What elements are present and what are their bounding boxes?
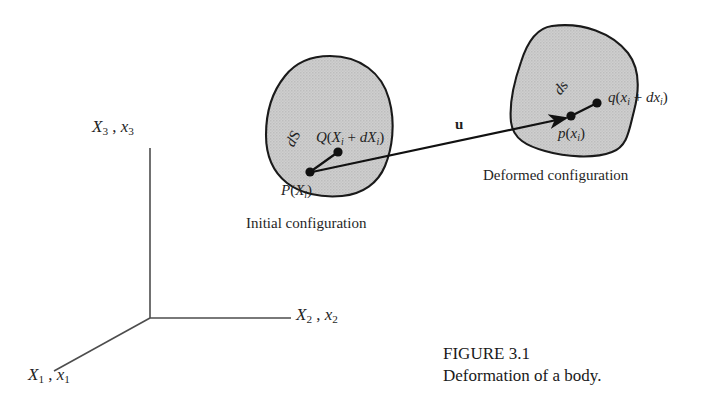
point-Q-marker [333,147,342,156]
axis-label-x3: X3 , x3 [92,118,134,137]
coordinate-axes [54,148,291,371]
displacement-vector-label: u [455,117,463,132]
point-p-marker [566,111,575,120]
point-label-Q: Q(Xi + dXi) [316,130,384,147]
point-label-P: P(Xi) [281,183,312,200]
axis-label-x2: X2 , x2 [296,306,338,325]
point-q-marker [592,98,601,107]
initial-configuration-body [266,56,393,196]
figure-caption-text: Deformation of a body. [443,365,601,387]
figure-canvas [0,0,727,404]
axis-label-x1: X1 , x1 [28,366,70,385]
initial-configuration-caption: Initial configuration [246,216,366,231]
deformed-configuration-caption: Deformed configuration [483,168,628,183]
figure-caption: FIGURE 3.1 Deformation of a body. [443,343,601,387]
initial-body-outline [266,56,393,196]
point-label-p: p(xi) [558,126,585,143]
point-label-q: q(xi + dxi) [608,90,668,107]
axis-x1-line [54,318,150,371]
figure-deformation-of-a-body: X3 , x3 X2 , x2 X1 , x1 Q(Xi + dXi) P(Xi… [0,0,727,404]
figure-caption-title: FIGURE 3.1 [443,343,601,365]
